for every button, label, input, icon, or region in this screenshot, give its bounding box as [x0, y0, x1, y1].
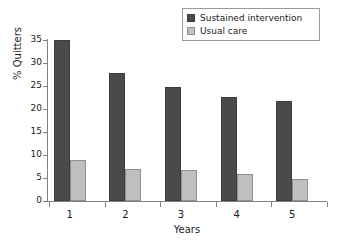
x-tick-label: 3: [166, 209, 196, 220]
x-tick-label: 1: [55, 209, 85, 220]
y-tick-label: 20: [18, 104, 42, 113]
legend-label-usual-care: Usual care: [200, 26, 247, 36]
bar-chart: Sustained intervention Usual care 051015…: [0, 0, 341, 243]
legend-swatch-usual-care: [187, 27, 195, 35]
y-tick-label: 5: [18, 173, 42, 182]
x-axis-line: [47, 201, 327, 202]
legend-item-usual-care: Usual care: [187, 25, 315, 37]
y-tick-label: 10: [18, 150, 42, 159]
x-tick-mark: [271, 202, 272, 207]
bar-usual-care-year-4: [237, 174, 253, 201]
plot-area: [48, 40, 326, 201]
legend-label-sustained-intervention: Sustained intervention: [200, 13, 302, 23]
x-axis-title: Years: [47, 224, 327, 235]
bar-usual-care-year-5: [292, 179, 308, 201]
x-tick-mark: [327, 202, 328, 207]
legend-item-sustained-intervention: Sustained intervention: [187, 12, 315, 24]
bar-sustained-intervention-year-3: [165, 87, 181, 201]
legend-swatch-sustained-intervention: [187, 14, 195, 22]
bar-sustained-intervention-year-1: [54, 40, 70, 201]
y-tick-label: 0: [18, 196, 42, 205]
x-tick-label: 4: [222, 209, 252, 220]
chart-legend: Sustained intervention Usual care: [182, 8, 320, 41]
x-tick-mark: [105, 202, 106, 207]
x-tick-mark: [160, 202, 161, 207]
y-tick-mark: [43, 201, 48, 202]
bar-sustained-intervention-year-5: [276, 101, 292, 201]
x-tick-mark: [49, 202, 50, 207]
bar-usual-care-year-2: [125, 169, 141, 201]
x-tick-label: 2: [110, 209, 140, 220]
bar-sustained-intervention-year-2: [109, 73, 125, 201]
y-axis-title: % Quitters: [12, 4, 23, 104]
x-tick-mark: [216, 202, 217, 207]
bar-sustained-intervention-year-4: [221, 97, 237, 201]
x-tick-label: 5: [277, 209, 307, 220]
y-tick-label: 15: [18, 127, 42, 136]
bar-usual-care-year-1: [70, 160, 86, 201]
bar-usual-care-year-3: [181, 170, 197, 201]
